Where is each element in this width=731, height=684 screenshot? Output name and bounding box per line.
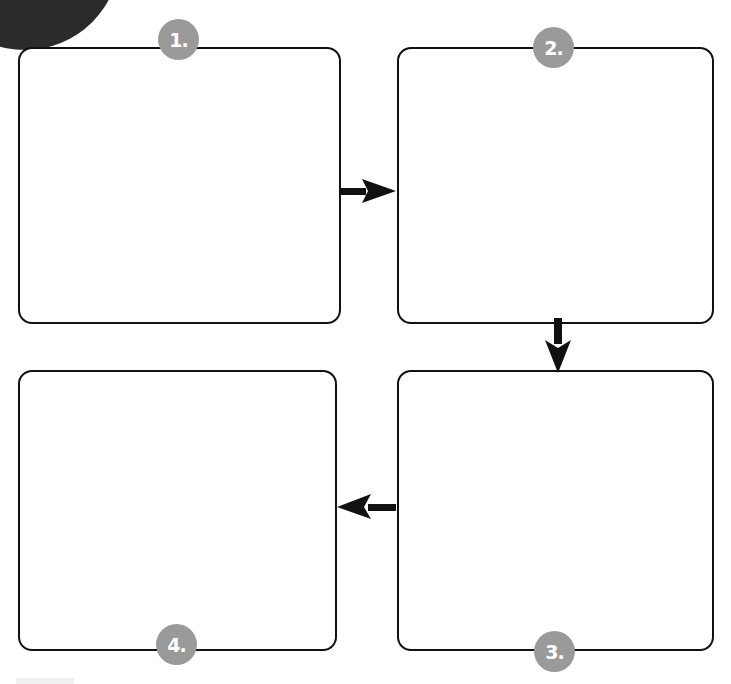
- faint-mark: [16, 678, 74, 684]
- step-badge-2: 2.: [533, 27, 574, 68]
- arrow-right-icon: [340, 179, 396, 203]
- step-badge-4: 4.: [156, 624, 197, 665]
- arrow-left-icon: [337, 494, 396, 519]
- step-badge-3: 3.: [534, 631, 575, 672]
- arrow-down-icon: [545, 318, 571, 373]
- step-badge-1: 1.: [158, 19, 199, 60]
